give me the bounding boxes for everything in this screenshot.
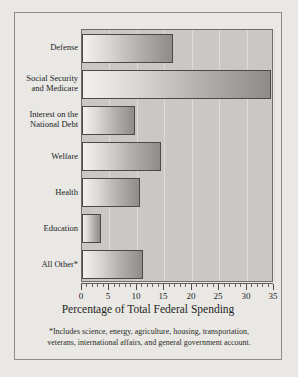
bar-row[interactable]: [82, 214, 274, 243]
x-tick-major: [163, 284, 164, 290]
chart-footnote: *Includes science, energy, agriculture, …: [22, 327, 276, 348]
category-label-line: Health: [16, 187, 78, 197]
x-tick-label: 5: [96, 291, 120, 301]
x-tick-minor: [202, 284, 203, 287]
category-label: Defense: [16, 42, 78, 52]
chart-figure: DefenseSocial Securityand MedicareIntere…: [0, 0, 298, 377]
bar-row[interactable]: [82, 250, 274, 279]
x-tick-minor: [196, 284, 197, 287]
bar[interactable]: [82, 178, 140, 207]
category-label-line: Interest on the: [16, 109, 78, 119]
category-label: All Other*: [16, 259, 78, 269]
x-axis-title: Percentage of Total Federal Spending: [14, 303, 282, 315]
x-tick-major: [81, 284, 82, 290]
bar[interactable]: [82, 106, 135, 135]
plot-area: [81, 29, 273, 282]
x-tick-major: [191, 284, 192, 290]
x-tick-minor: [86, 284, 87, 287]
x-tick-minor: [262, 284, 263, 287]
x-tick-minor: [92, 284, 93, 287]
x-tick-major: [273, 284, 274, 290]
x-tick-minor: [213, 284, 214, 287]
x-tick-minor: [235, 284, 236, 287]
x-tick-minor: [125, 284, 126, 287]
x-tick-minor: [185, 284, 186, 287]
category-label-line: and Medicare: [16, 83, 78, 93]
x-tick-major: [218, 284, 219, 290]
x-tick-minor: [169, 284, 170, 287]
gridline: [274, 30, 275, 281]
x-tick-minor: [174, 284, 175, 287]
x-tick-major: [246, 284, 247, 290]
category-label-line: All Other*: [16, 259, 78, 269]
x-tick-minor: [257, 284, 258, 287]
bar-row[interactable]: [82, 70, 274, 99]
x-axis-line: [81, 283, 273, 284]
bar[interactable]: [82, 70, 271, 99]
bar-row[interactable]: [82, 34, 274, 63]
category-label: Education: [16, 223, 78, 233]
bar-row[interactable]: [82, 106, 274, 135]
x-tick-minor: [180, 284, 181, 287]
bar[interactable]: [82, 214, 101, 243]
x-tick-label: 25: [206, 291, 230, 301]
category-label: Health: [16, 187, 78, 197]
x-tick-minor: [268, 284, 269, 287]
x-tick-minor: [224, 284, 225, 287]
x-tick-label: 10: [124, 291, 148, 301]
x-tick-label: 30: [234, 291, 258, 301]
bar[interactable]: [82, 250, 143, 279]
x-tick-minor: [207, 284, 208, 287]
x-tick-minor: [130, 284, 131, 287]
x-tick-minor: [251, 284, 252, 287]
footnote-line-1: *Includes science, energy, agriculture, …: [22, 327, 276, 338]
bar-row[interactable]: [82, 142, 274, 171]
x-tick-minor: [97, 284, 98, 287]
category-label-line: Social Security: [16, 73, 78, 83]
x-tick-minor: [229, 284, 230, 287]
x-tick-minor: [158, 284, 159, 287]
x-tick-label: 0: [69, 291, 93, 301]
category-label-line: National Debt: [16, 119, 78, 129]
bar-row[interactable]: [82, 178, 274, 207]
category-label: Social Securityand Medicare: [16, 73, 78, 93]
x-tick-major: [108, 284, 109, 290]
x-tick-label: 35: [261, 291, 285, 301]
category-label: Welfare: [16, 151, 78, 161]
footnote-line-2: veterans, international affairs, and gen…: [22, 338, 276, 349]
x-tick-major: [136, 284, 137, 290]
x-tick-minor: [119, 284, 120, 287]
x-tick-label: 15: [151, 291, 175, 301]
x-tick-label: 20: [179, 291, 203, 301]
x-tick-minor: [152, 284, 153, 287]
x-tick-minor: [141, 284, 142, 287]
bar[interactable]: [82, 34, 173, 63]
x-tick-minor: [147, 284, 148, 287]
x-tick-minor: [103, 284, 104, 287]
category-label-line: Defense: [16, 42, 78, 52]
category-label-line: Education: [16, 223, 78, 233]
category-label-line: Welfare: [16, 151, 78, 161]
category-label: Interest on theNational Debt: [16, 109, 78, 129]
x-tick-minor: [240, 284, 241, 287]
bar[interactable]: [82, 142, 161, 171]
category-axis-labels: DefenseSocial Securityand MedicareIntere…: [16, 29, 78, 282]
x-tick-minor: [114, 284, 115, 287]
